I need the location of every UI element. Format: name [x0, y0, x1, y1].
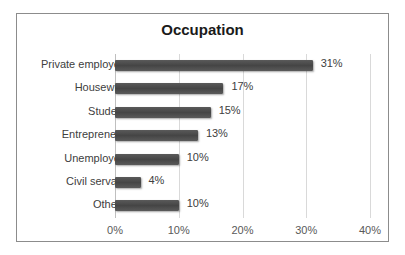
bar [115, 83, 223, 94]
x-tick-label: 30% [295, 224, 317, 236]
value-label: 15% [219, 104, 241, 116]
bar [115, 177, 141, 188]
value-label: 10% [187, 151, 209, 163]
value-label: 13% [206, 127, 228, 139]
x-tick-label: 40% [359, 224, 381, 236]
chart-frame: Occupation Private employeeHousewifeStud… [16, 13, 389, 242]
bar [115, 60, 313, 71]
gridline [370, 54, 371, 218]
category-label: Private employee [41, 58, 126, 70]
x-tick-label: 0% [107, 224, 123, 236]
x-tick-label: 10% [168, 224, 190, 236]
x-tick-label: 20% [231, 224, 253, 236]
plot-area: 31%17%15%13%10%4%10% [115, 54, 370, 218]
gridline [306, 54, 307, 218]
value-label: 31% [321, 57, 343, 69]
chart-title: Occupation [17, 21, 388, 38]
value-label: 10% [187, 197, 209, 209]
value-label: 17% [231, 80, 253, 92]
bar [115, 130, 198, 141]
gridline [243, 54, 244, 218]
bar [115, 200, 179, 211]
value-label: 4% [149, 174, 165, 186]
bar [115, 154, 179, 165]
bar [115, 107, 211, 118]
